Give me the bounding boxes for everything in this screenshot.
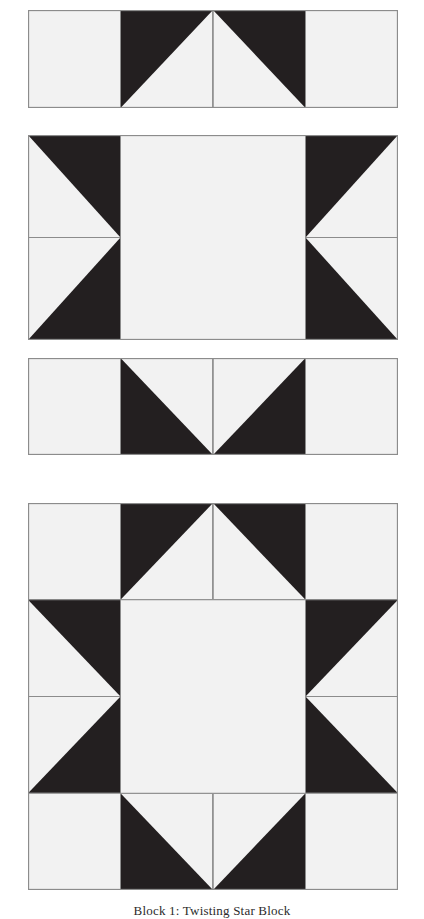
plain-patch (306, 793, 399, 890)
quilt-top-row-unit (28, 10, 398, 108)
plain-patch (306, 10, 399, 108)
quilt-center-band-unit (28, 135, 398, 340)
plain-patch (306, 358, 399, 455)
center-square-patch (121, 600, 306, 794)
quilt-bottom-row-unit (28, 358, 398, 455)
plain-patch (28, 793, 121, 890)
figure-caption: Block 1: Twisting Star Block (0, 903, 424, 919)
plain-patch (28, 10, 121, 108)
center-band-unit-canvas (28, 135, 398, 340)
quilt-assembled-star-block (28, 503, 398, 890)
center-square-patch (121, 135, 306, 340)
plain-patch (306, 503, 399, 600)
plain-patch (28, 503, 121, 600)
diagram-page: Block 1: Twisting Star Block (0, 0, 424, 919)
top-row-unit-canvas (28, 10, 398, 108)
assembled-star-block-canvas (28, 503, 398, 890)
plain-patch (28, 358, 121, 455)
bottom-row-unit-canvas (28, 358, 398, 455)
